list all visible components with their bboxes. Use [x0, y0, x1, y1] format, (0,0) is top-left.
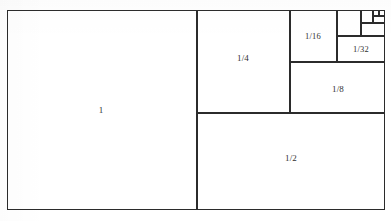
region-one-2048th — [379, 10, 385, 16]
region-one-512th — [373, 16, 385, 23]
region-one-sixteenth-label: 1/16 — [305, 32, 321, 41]
geometric-series-figure: 1 1/2 1/4 1/8 1/16 1/32 — [0, 0, 391, 221]
region-one-thirty-second-label: 1/32 — [353, 45, 369, 54]
region-one-sixty-fourth — [337, 10, 361, 36]
region-one-eighth-label: 1/8 — [332, 85, 344, 94]
region-one-quarter-label: 1/4 — [237, 54, 249, 63]
region-one-256th — [361, 10, 373, 23]
region-one-half-label: 1/2 — [285, 154, 297, 163]
region-one-128th — [361, 23, 385, 36]
region-one-label: 1 — [99, 106, 104, 115]
